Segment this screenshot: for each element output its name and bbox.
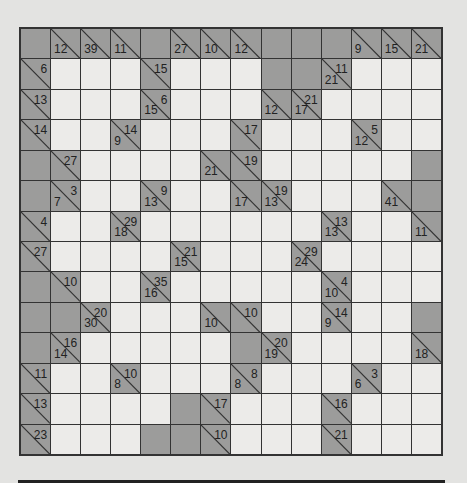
entry-cell[interactable] [352,425,381,454]
entry-cell[interactable] [231,59,260,88]
entry-cell[interactable] [51,364,80,393]
entry-cell[interactable] [382,303,411,332]
entry-cell[interactable] [171,120,200,149]
entry-cell[interactable] [382,212,411,241]
entry-cell[interactable] [382,120,411,149]
entry-cell[interactable] [231,425,260,454]
entry-cell[interactable] [141,303,170,332]
entry-cell[interactable] [352,90,381,119]
entry-cell[interactable] [412,272,441,301]
entry-cell[interactable] [322,333,351,362]
entry-cell[interactable] [201,181,230,210]
entry-cell[interactable] [262,303,291,332]
entry-cell[interactable] [51,212,80,241]
entry-cell[interactable] [382,272,411,301]
entry-cell[interactable] [352,242,381,271]
entry-cell[interactable] [201,364,230,393]
entry-cell[interactable] [322,151,351,180]
entry-cell[interactable] [292,425,321,454]
entry-cell[interactable] [201,59,230,88]
entry-cell[interactable] [171,333,200,362]
entry-cell[interactable] [412,242,441,271]
entry-cell[interactable] [51,120,80,149]
entry-cell[interactable] [322,181,351,210]
entry-cell[interactable] [231,272,260,301]
entry-cell[interactable] [231,242,260,271]
entry-cell[interactable] [382,242,411,271]
entry-cell[interactable] [201,333,230,362]
entry-cell[interactable] [141,212,170,241]
entry-cell[interactable] [171,151,200,180]
entry-cell[interactable] [352,272,381,301]
entry-cell[interactable] [262,394,291,423]
entry-cell[interactable] [141,394,170,423]
entry-cell[interactable] [231,394,260,423]
entry-cell[interactable] [382,90,411,119]
entry-cell[interactable] [382,364,411,393]
entry-cell[interactable] [352,212,381,241]
entry-cell[interactable] [412,120,441,149]
entry-cell[interactable] [111,59,140,88]
entry-cell[interactable] [171,303,200,332]
entry-cell[interactable] [262,272,291,301]
entry-cell[interactable] [111,272,140,301]
entry-cell[interactable] [81,333,110,362]
entry-cell[interactable] [352,303,381,332]
entry-cell[interactable] [322,364,351,393]
entry-cell[interactable] [262,242,291,271]
entry-cell[interactable] [51,59,80,88]
entry-cell[interactable] [231,212,260,241]
entry-cell[interactable] [111,242,140,271]
entry-cell[interactable] [51,242,80,271]
entry-cell[interactable] [292,212,321,241]
entry-cell[interactable] [262,151,291,180]
entry-cell[interactable] [141,333,170,362]
entry-cell[interactable] [141,151,170,180]
entry-cell[interactable] [111,151,140,180]
entry-cell[interactable] [81,212,110,241]
entry-cell[interactable] [352,333,381,362]
entry-cell[interactable] [111,425,140,454]
entry-cell[interactable] [292,151,321,180]
entry-cell[interactable] [201,90,230,119]
entry-cell[interactable] [141,242,170,271]
entry-cell[interactable] [262,364,291,393]
entry-cell[interactable] [81,272,110,301]
entry-cell[interactable] [262,120,291,149]
entry-cell[interactable] [382,425,411,454]
entry-cell[interactable] [292,272,321,301]
entry-cell[interactable] [111,181,140,210]
entry-cell[interactable] [51,425,80,454]
entry-cell[interactable] [81,242,110,271]
entry-cell[interactable] [81,151,110,180]
entry-cell[interactable] [292,303,321,332]
entry-cell[interactable] [171,212,200,241]
entry-cell[interactable] [111,394,140,423]
entry-cell[interactable] [352,59,381,88]
entry-cell[interactable] [111,303,140,332]
entry-cell[interactable] [231,90,260,119]
entry-cell[interactable] [352,151,381,180]
entry-cell[interactable] [201,120,230,149]
entry-cell[interactable] [171,181,200,210]
entry-cell[interactable] [412,59,441,88]
entry-cell[interactable] [292,181,321,210]
entry-cell[interactable] [81,120,110,149]
entry-cell[interactable] [382,333,411,362]
entry-cell[interactable] [81,425,110,454]
entry-cell[interactable] [171,59,200,88]
entry-cell[interactable] [111,90,140,119]
entry-cell[interactable] [412,90,441,119]
entry-cell[interactable] [292,333,321,362]
entry-cell[interactable] [292,120,321,149]
entry-cell[interactable] [322,120,351,149]
entry-cell[interactable] [322,90,351,119]
entry-cell[interactable] [352,181,381,210]
entry-cell[interactable] [352,394,381,423]
entry-cell[interactable] [141,364,170,393]
entry-cell[interactable] [111,333,140,362]
entry-cell[interactable] [201,242,230,271]
entry-cell[interactable] [81,364,110,393]
entry-cell[interactable] [81,90,110,119]
entry-cell[interactable] [262,212,291,241]
